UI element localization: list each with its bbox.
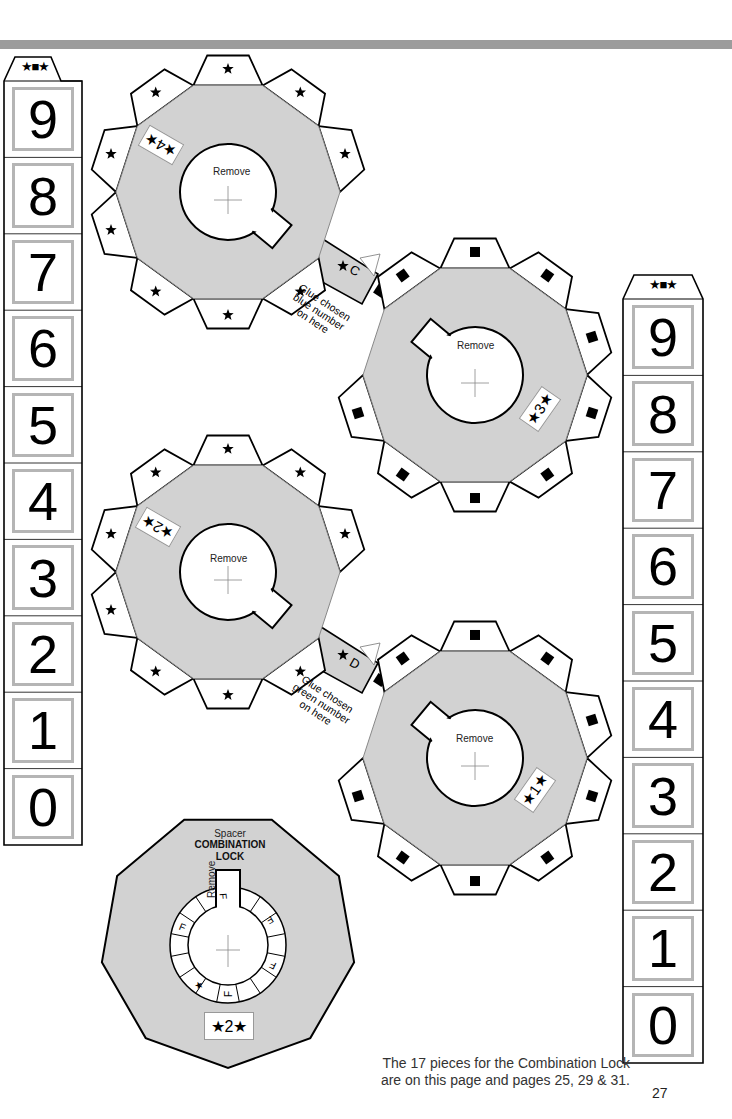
wheel-3-tab-square-icon (470, 247, 480, 257)
spacer-title: Spacer (200, 828, 260, 839)
wheel-1-tab-square-icon (470, 876, 480, 886)
wheel-2 (92, 435, 365, 708)
wheel-3-remove-label: Remove (457, 340, 494, 351)
wheel-4 (92, 55, 365, 328)
wheel-1-remove-label: Remove (456, 733, 493, 744)
page-caption: The 17 pieces for the Combination Lock a… (380, 1055, 630, 1089)
spacer-name-line1: COMBINATION (180, 839, 280, 850)
wheel-3 (339, 238, 612, 511)
spacer-number-label: ★2★ (204, 1012, 254, 1040)
wheel-1-tab-square-icon (470, 630, 480, 640)
spacer-remove-label: Remove (206, 861, 217, 898)
wheel-3-tab-square-icon (470, 493, 480, 503)
spacer-keyway-fill (217, 871, 239, 911)
wheel-4-remove-label: Remove (213, 166, 250, 177)
page-number: 27 (652, 1085, 668, 1101)
gear-pieces-layer: ★FFFFF (0, 0, 732, 1119)
spacer-f-mark: F (223, 991, 234, 997)
spacer-f-mark: F (217, 893, 228, 900)
wheel-1 (339, 621, 612, 894)
wheel-2-remove-label: Remove (210, 553, 247, 564)
